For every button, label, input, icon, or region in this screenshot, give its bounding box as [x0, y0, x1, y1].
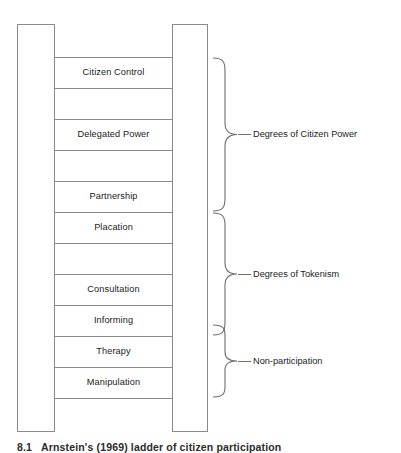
ladder-step-label: Consultation [87, 285, 139, 294]
ladder-step-label: Citizen Control [83, 68, 145, 77]
ladder-step-consultation: Consultation [54, 274, 173, 305]
figure-caption-number: 8.1 [17, 441, 32, 453]
brace-degrees-of-citizen-power [212, 57, 238, 212]
ladder-step-label: Delegated Power [78, 130, 150, 139]
ladder-right-rail [172, 24, 208, 432]
ladder-step-citizen-control: Citizen Control [54, 57, 173, 88]
ladder-step-informing: Informing [54, 305, 173, 336]
ladder-step-blank-1 [54, 88, 173, 119]
ladder-step-label: Manipulation [87, 378, 140, 387]
brace-tick-non-participation [238, 361, 251, 362]
brace-tick-tokenism [238, 274, 251, 275]
ladder-step-label: Therapy [96, 347, 130, 356]
group-label-degrees-of-tokenism: Degrees of Tokenism [253, 270, 339, 279]
group-label-non-participation: Non-participation [253, 357, 322, 366]
figure-arnstein-ladder: Citizen Control Delegated Power Partners… [0, 0, 401, 453]
brace-non-participation [212, 324, 238, 398]
ladder-step-label: Informing [94, 316, 133, 325]
brace-degrees-of-tokenism [212, 212, 238, 336]
ladder-step-placation: Placation [54, 212, 173, 243]
figure-caption: 8.1Arnstein's (1969) ladder of citizen p… [17, 441, 387, 453]
brace-tick-citizen-power [238, 134, 251, 135]
ladder-step-label: Partnership [89, 192, 137, 201]
ladder-step-therapy: Therapy [54, 336, 173, 367]
group-label-degrees-of-citizen-power: Degrees of Citizen Power [253, 130, 357, 139]
ladder-step-label: Placation [94, 223, 133, 232]
ladder-step-manipulation: Manipulation [54, 367, 173, 398]
rung-line [54, 398, 173, 399]
ladder-step-blank-3 [54, 243, 173, 274]
ladder-left-rail [17, 24, 55, 432]
figure-caption-text: Arnstein's (1969) ladder of citizen part… [41, 441, 281, 453]
ladder-step-delegated-power: Delegated Power [54, 119, 173, 150]
ladder-step-partnership: Partnership [54, 181, 173, 212]
ladder-step-blank-2 [54, 150, 173, 181]
